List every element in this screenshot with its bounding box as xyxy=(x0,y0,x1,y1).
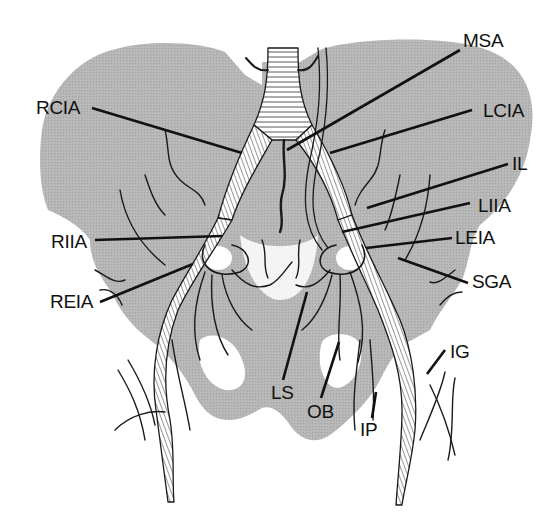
label-ls: LS xyxy=(271,383,294,402)
label-leia: LEIA xyxy=(455,228,495,247)
label-sga: SGA xyxy=(472,272,511,291)
label-il: IL xyxy=(512,154,527,173)
label-lcia: LCIA xyxy=(483,101,524,120)
pelvic-artery-diagram: MSA RCIA LCIA IL LIIA LEIA RIIA SGA REIA… xyxy=(0,0,554,525)
label-liia: LIIA xyxy=(478,196,511,215)
label-reia: REIA xyxy=(50,292,93,311)
label-msa: MSA xyxy=(463,31,503,50)
label-ig: IG xyxy=(450,342,469,361)
anatomy-illustration xyxy=(0,0,554,525)
label-riia: RIIA xyxy=(51,232,87,251)
label-ip: IP xyxy=(360,420,377,439)
label-rcia: RCIA xyxy=(36,98,80,117)
label-ob: OB xyxy=(307,402,334,421)
leader-line-ig xyxy=(427,350,445,374)
